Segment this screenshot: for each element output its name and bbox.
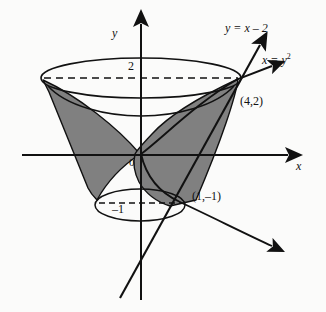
parabola-equation-base: x = y xyxy=(262,53,287,67)
solid-of-revolution-figure xyxy=(0,0,326,312)
point-label-1-minus-1: (1,–1) xyxy=(192,190,221,202)
line-equation-label: y = x – 2 xyxy=(225,22,268,34)
y-axis-label: y xyxy=(112,27,117,39)
y-tick-minus-1-label: –1 xyxy=(112,203,124,215)
point-label-4-2: (4,2) xyxy=(240,95,263,107)
x-axis-label: x xyxy=(296,160,301,172)
y-tick-2-label: 2 xyxy=(128,60,134,72)
parabola-equation-exponent: 2 xyxy=(287,52,291,61)
parabola-equation-label: x = y2 xyxy=(262,53,291,66)
origin-label: 0 xyxy=(129,157,135,168)
